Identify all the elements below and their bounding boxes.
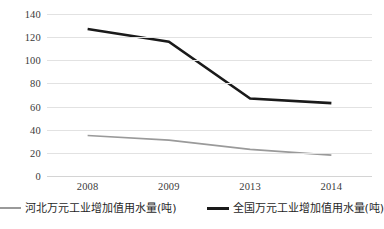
gridline bbox=[47, 130, 372, 131]
y-tick-label: 80 bbox=[0, 78, 41, 89]
series-layer bbox=[47, 14, 372, 176]
legend-line-swatch-icon bbox=[0, 207, 21, 209]
gridline bbox=[47, 37, 372, 38]
x-tick-label: 2014 bbox=[320, 180, 342, 193]
legend-line-swatch-icon bbox=[207, 207, 229, 210]
gridline bbox=[47, 60, 372, 61]
series-line-national bbox=[88, 29, 332, 103]
legend-label: 河北万元工业增加值用水量(吨) bbox=[25, 202, 177, 215]
y-tick-label: 40 bbox=[0, 124, 41, 135]
gridline bbox=[47, 83, 372, 84]
legend: 河北万元工业增加值用水量(吨)全国万元工业增加值用水量(吨) bbox=[0, 198, 383, 218]
y-tick-label: 60 bbox=[0, 101, 41, 112]
y-tick-label: 140 bbox=[0, 9, 41, 20]
y-tick-label: 100 bbox=[0, 55, 41, 66]
x-tick-label: 2009 bbox=[158, 180, 180, 193]
y-tick-label: 120 bbox=[0, 32, 41, 43]
x-tick-label: 2013 bbox=[239, 180, 261, 193]
axis-baseline bbox=[47, 176, 372, 177]
y-axis: 020406080100120140 bbox=[0, 14, 41, 176]
gridline bbox=[47, 14, 372, 15]
legend-item-national[interactable]: 全国万元工业增加值用水量(吨) bbox=[207, 202, 384, 215]
legend-label: 全国万元工业增加值用水量(吨) bbox=[233, 202, 384, 215]
gridline bbox=[47, 107, 372, 108]
y-tick-label: 0 bbox=[0, 171, 41, 182]
x-axis: 2008200920132014 bbox=[47, 180, 372, 196]
x-tick-label: 2008 bbox=[77, 180, 99, 193]
plot-area bbox=[47, 14, 372, 176]
legend-item-hebei[interactable]: 河北万元工业增加值用水量(吨) bbox=[0, 202, 177, 215]
gridline bbox=[47, 153, 372, 154]
y-tick-label: 20 bbox=[0, 147, 41, 158]
